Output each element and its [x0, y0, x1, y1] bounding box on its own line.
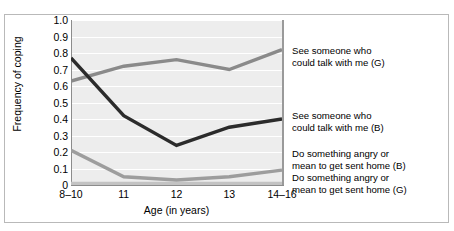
y-tick-label: 0.5 [28, 98, 68, 108]
series-label-angry-mean-g: Do something angry or mean to get sent h… [292, 172, 407, 195]
x-tick-label: 12 [171, 188, 183, 200]
y-axis-label: Frequency of coping [11, 24, 23, 144]
y-tick-label: 0.8 [28, 48, 68, 58]
series-label-see-someone-b: See someone who could talk with me (B) [292, 110, 384, 133]
series-line-angry-mean-B [71, 150, 282, 180]
x-tick-label: 13 [223, 188, 235, 200]
series-line-see-someone-G [71, 50, 282, 81]
y-tick-label: 1.0 [28, 15, 68, 25]
y-tick-label: 0.6 [28, 81, 68, 91]
series-label-angry-mean-b: Do something angry or mean to get sent h… [292, 148, 406, 171]
x-axis-line [71, 185, 284, 186]
y-tick-label: 0.1 [28, 164, 68, 174]
series-lines [71, 20, 282, 185]
figure: 1.00.90.80.70.60.50.40.30.20.10 Frequenc… [0, 0, 454, 231]
y-axis-ticks: 1.00.90.80.70.60.50.40.30.20.10 [24, 20, 68, 186]
x-axis-ticks: 8–1011121314–16 [71, 188, 282, 202]
y-tick-label: 0.2 [28, 147, 68, 157]
x-tick-label: 8–10 [59, 188, 82, 200]
y-tick-label: 0.7 [28, 65, 68, 75]
series-label-see-someone-g: See someone who could talk with me (G) [292, 45, 385, 68]
y-tick-label: 0.9 [28, 32, 68, 42]
y-tick-label: 0.3 [28, 131, 68, 141]
x-tick-label: 11 [118, 188, 129, 200]
plot-right-border [282, 20, 284, 186]
y-tick-label: 0.4 [28, 114, 68, 124]
x-axis-label: Age (in years) [71, 204, 282, 216]
